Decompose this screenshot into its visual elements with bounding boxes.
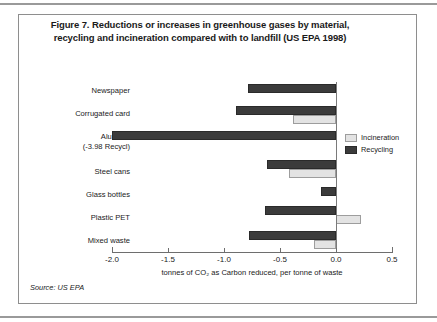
chart-legend: Incineration Recycling (345, 133, 399, 157)
bar-incineration-steel-cans (289, 169, 336, 178)
x-axis-line (112, 252, 392, 253)
figure-source: Source: US EPA (30, 283, 84, 292)
bar-recycling-plastic-pet (265, 206, 336, 215)
category-label-glass-bottles: Glass bottles (20, 190, 130, 200)
bar-recycling-glass-bottles (321, 187, 336, 196)
category-label-text: Plastic PET (91, 213, 130, 222)
category-label-text: Steel cans (95, 167, 130, 176)
category-label-plastic-pet: Plastic PET (20, 213, 130, 223)
zero-baseline (336, 82, 337, 252)
bar-recycling-alu-cans (112, 131, 336, 140)
category-label-corrugated-card: Corrugated card (20, 109, 130, 119)
bar-recycling-corrugated-card (236, 106, 336, 115)
x-axis-tick-label-0: -2.0 (105, 255, 119, 264)
bar-recycling-steel-cans (267, 160, 336, 169)
x-axis-tick-2 (224, 248, 225, 253)
category-label-text: Corrugated card (75, 109, 130, 118)
figure-page: Figure 7. Reductions or increases in gre… (0, 0, 437, 322)
legend-label-incineration: Incineration (361, 133, 399, 142)
x-axis-tick-label-5: 0.5 (386, 255, 397, 264)
category-label-newspaper: Newspaper (40, 86, 130, 96)
legend-item-incineration: Incineration (345, 133, 399, 142)
bar-incineration-mixed-waste (314, 240, 336, 249)
x-axis-tick-label-3: -0.5 (273, 255, 287, 264)
chart-plot-area: Newspaper Corrugated card Alu cans (-3.9… (0, 0, 437, 322)
x-axis-tick-4 (336, 248, 337, 253)
bar-recycling-newspaper (248, 84, 337, 93)
bar-incineration-plastic-pet (336, 215, 361, 224)
x-axis-tick-label-1: -1.5 (161, 255, 175, 264)
legend-label-recycling: Recycling (361, 145, 393, 154)
x-axis-title: tonnes of CO₂ as Carbon reduced, per ton… (112, 268, 392, 277)
x-axis-tick-3 (280, 248, 281, 253)
legend-swatch-incineration-icon (345, 134, 357, 142)
x-axis-tick-label-2: -1.0 (217, 255, 231, 264)
category-label-mixed-waste: Mixed waste (20, 236, 130, 246)
x-axis-tick-label-4: 0.0 (330, 255, 341, 264)
x-axis-tick-5 (392, 247, 393, 253)
legend-swatch-recycling-icon (345, 146, 357, 154)
category-label-steel-cans: Steel cans (30, 167, 130, 177)
category-label-text: Glass bottles (86, 190, 130, 199)
x-axis-tick-1 (168, 248, 169, 253)
bar-incineration-corrugated-card (293, 115, 336, 124)
category-label-subtext: (-3.98 Recycl) (20, 142, 130, 152)
x-axis-tick-0 (112, 247, 113, 253)
legend-item-recycling: Recycling (345, 145, 399, 154)
category-label-text: Newspaper (92, 86, 130, 95)
category-label-text: Mixed waste (88, 236, 130, 245)
bar-recycling-mixed-waste (249, 231, 336, 240)
